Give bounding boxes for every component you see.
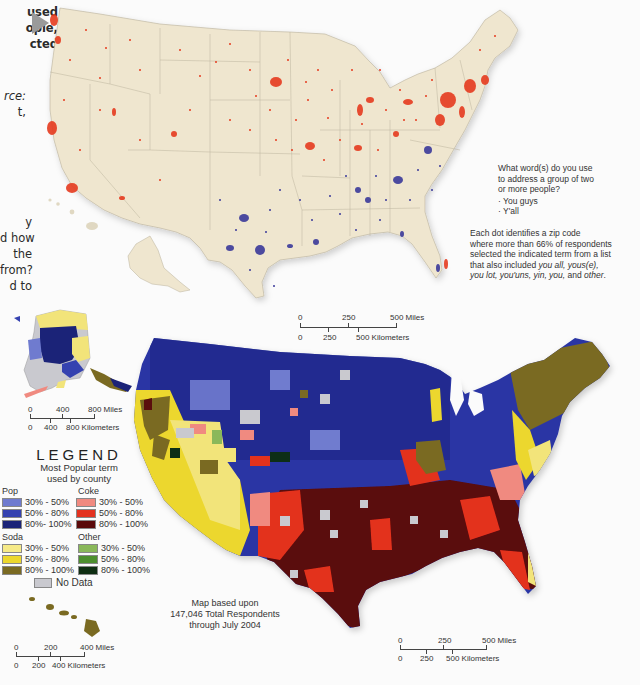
option-you-guys: · You guys <box>498 196 640 207</box>
choropleth-map-pop-soda-coke <box>130 330 640 640</box>
hawaii-scale-bar: 0 200 400 Miles 0 200 400 Kilometers <box>14 643 114 673</box>
legend-swatch <box>76 498 96 507</box>
note-line: Each dot identifies a zip code <box>470 228 640 239</box>
left-text-line: from? <box>0 262 32 278</box>
legend-swatch <box>76 509 96 518</box>
hawaii-map <box>20 595 100 640</box>
legend-swatch <box>2 520 22 529</box>
legend-swatch <box>2 544 22 553</box>
question-line: What word(s) do you use <box>498 163 640 174</box>
legend-item: 50% - 80% <box>78 554 145 564</box>
option-yall: · Y'all <box>498 206 640 217</box>
legend-swatch <box>78 544 98 553</box>
top-map-you-guys-yall <box>40 0 540 310</box>
left-text-bottom: y d how the from? d to <box>0 214 32 294</box>
legend-swatch <box>34 578 52 588</box>
legend-item: 30% - 50% <box>2 543 69 553</box>
legend-item: 80% - 100% <box>76 519 148 529</box>
note-line: where more than 66% of respondents <box>470 239 640 250</box>
left-text-line: t, <box>0 104 26 120</box>
left-text-line: y <box>0 214 32 230</box>
legend-title: LEGEND <box>14 446 144 463</box>
legend-item: 80%- 100% <box>2 519 72 529</box>
left-text-line: the <box>0 246 32 262</box>
legend-no-data: No Data <box>34 577 93 588</box>
legend-subtitle: Most Popular term used by county <box>14 462 144 484</box>
alaska-scale-bar: 0 400 800 Miles 0 400 800 Kilometers <box>28 405 128 435</box>
left-text-mid: rce: t, <box>0 88 26 120</box>
main-map-scale-bar: 0 250 500 Miles 0 250 500 Kilometers <box>398 636 518 666</box>
legend-swatch <box>2 509 22 518</box>
legend-swatch <box>76 520 96 529</box>
note-line: selected the indicated term from a list <box>470 249 640 260</box>
top-map-caption: What word(s) do you use to address a gro… <box>498 163 640 217</box>
legend-group-other: Other <box>78 532 101 542</box>
respondents-credit: Map based upon 147,046 Total Respondents… <box>150 598 300 631</box>
top-map-land <box>50 8 518 298</box>
legend-item: 30% - 50% <box>76 497 143 507</box>
legend-swatch <box>78 555 98 564</box>
legend-swatch <box>2 555 22 564</box>
legend-group-pop: Pop <box>2 486 18 496</box>
legend-item: 80% - 100% <box>2 565 74 575</box>
legend-item: 50% - 80% <box>76 508 143 518</box>
legend-item: 30% - 50% <box>78 543 145 553</box>
question-line: to address a group of two <box>498 174 640 185</box>
legend-item: 50% - 80% <box>2 554 69 564</box>
legend-group-coke: Coke <box>78 486 99 496</box>
legend-swatch <box>78 566 98 575</box>
legend-swatch <box>2 566 22 575</box>
left-text-line: d how <box>0 230 32 246</box>
left-text-line: d to <box>0 278 32 294</box>
left-text-line: rce: <box>4 89 26 103</box>
legend-item: 80% - 100% <box>78 565 150 575</box>
legend-item: 50% - 80% <box>2 508 69 518</box>
question-line: or more people? <box>498 184 640 195</box>
alaska-map <box>0 308 140 408</box>
top-map-note: Each dot identifies a zip code where mor… <box>470 228 640 281</box>
legend-swatch <box>2 498 22 507</box>
note-line: that also included you all, yous(e), <box>470 260 640 271</box>
legend-group-soda: Soda <box>2 532 23 542</box>
note-line: you lot, you'uns, yin, you, and other. <box>470 270 640 281</box>
legend-item: 30% - 50% <box>2 497 69 507</box>
